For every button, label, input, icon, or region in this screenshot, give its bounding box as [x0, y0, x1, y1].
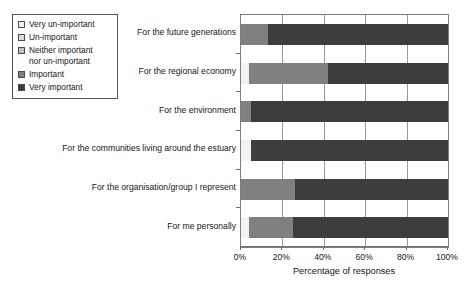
bar-segment [251, 140, 448, 161]
x-tick [240, 246, 241, 250]
bar-3 [241, 101, 448, 122]
x-axis-title: Percentage of responses [240, 266, 448, 276]
category-label: For me personally [6, 221, 236, 231]
category-label: For the environment [6, 105, 236, 115]
x-tick-label: 80% [397, 252, 414, 262]
bar-segment [241, 101, 251, 122]
bar-segment [249, 63, 328, 84]
x-tick [364, 246, 365, 250]
bar-segment [251, 101, 448, 122]
x-tick [281, 246, 282, 250]
x-tick-label: 100% [436, 252, 458, 262]
gridline [324, 15, 325, 247]
x-tick-label: 40% [314, 252, 331, 262]
bar-segment [293, 217, 448, 238]
category-label: For the regional economy [6, 66, 236, 76]
bar-4 [241, 140, 448, 161]
bar-segment [241, 217, 249, 238]
bar-segment [241, 63, 249, 84]
x-tick-label: 0% [234, 252, 246, 262]
bar-segment [328, 63, 448, 84]
x-tick [447, 246, 448, 250]
bar-2 [241, 63, 448, 84]
bar-segment [249, 217, 292, 238]
category-label: For the organisation/group I represent [6, 182, 236, 192]
gridline [407, 15, 408, 247]
x-tick-label: 20% [273, 252, 290, 262]
plot-area [240, 14, 449, 248]
bar-segment [268, 24, 448, 45]
bar-segment [241, 24, 268, 45]
category-axis-labels: For the future generationsFor the region… [0, 14, 236, 246]
bar-1 [241, 24, 448, 45]
category-label: For the communities living around the es… [6, 143, 236, 153]
category-label: For the future generations [6, 27, 236, 37]
bar-segment [295, 179, 448, 200]
bar-6 [241, 217, 448, 238]
stacked-bar-chart: Very un-important Un-important Neither i… [0, 0, 466, 296]
x-tick-label: 60% [356, 252, 373, 262]
x-axis: 0%20%40%60%80%100% [240, 246, 448, 247]
gridline [282, 15, 283, 247]
x-tick [323, 246, 324, 250]
x-tick [406, 246, 407, 250]
bar-segment [241, 179, 295, 200]
bar-5 [241, 179, 448, 200]
bar-segment [241, 140, 251, 161]
gridline [365, 15, 366, 247]
